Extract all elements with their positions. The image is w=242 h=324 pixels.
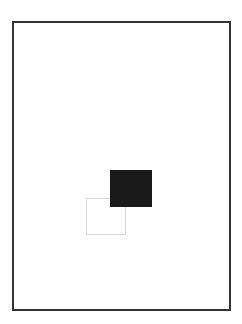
figure-frame: [12, 21, 231, 311]
figure-canvas: [0, 0, 242, 324]
